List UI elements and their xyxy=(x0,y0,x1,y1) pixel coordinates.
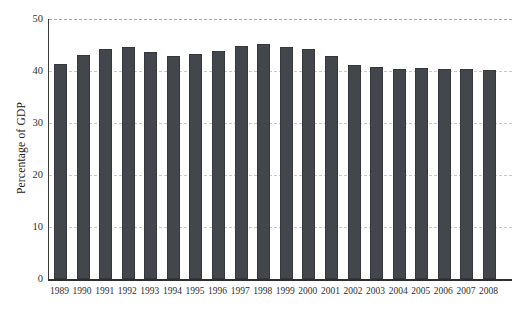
bar-2003 xyxy=(370,67,383,279)
bar-1998 xyxy=(257,44,270,279)
bar-1993 xyxy=(144,52,157,279)
bar-1997 xyxy=(235,46,248,279)
bar-1995 xyxy=(189,54,202,279)
bar-2000 xyxy=(302,49,315,279)
bar-2004 xyxy=(393,69,406,279)
bar-2008 xyxy=(483,70,496,279)
bar-1992 xyxy=(122,47,135,279)
bar-1999 xyxy=(280,47,293,279)
bar-1991 xyxy=(99,49,112,279)
bar-1996 xyxy=(212,51,225,279)
bar-1994 xyxy=(167,56,180,279)
y-tick-label-10: 10 xyxy=(0,221,43,233)
y-tick-label-30: 30 xyxy=(0,117,43,129)
y-tick-label-40: 40 xyxy=(0,65,43,77)
bar-2007 xyxy=(460,69,473,279)
x-tick-label-2008: 2008 xyxy=(476,286,502,297)
bar-2005 xyxy=(415,68,428,279)
bar-2006 xyxy=(438,69,451,279)
bar-2002 xyxy=(348,65,361,279)
y-tick-label-20: 20 xyxy=(0,169,43,181)
gridline-50 xyxy=(49,19,512,20)
bar-1989 xyxy=(54,64,67,279)
bar-2001 xyxy=(325,56,338,279)
y-tick-label-50: 50 xyxy=(0,13,43,25)
y-tick-label-0: 0 xyxy=(0,273,43,285)
plot-area xyxy=(48,19,512,281)
bar-chart: Percentage of GDP 01020304050 1989199019… xyxy=(0,0,523,310)
y-axis-title: Percentage of GDP xyxy=(15,98,27,198)
bar-1990 xyxy=(77,55,90,279)
